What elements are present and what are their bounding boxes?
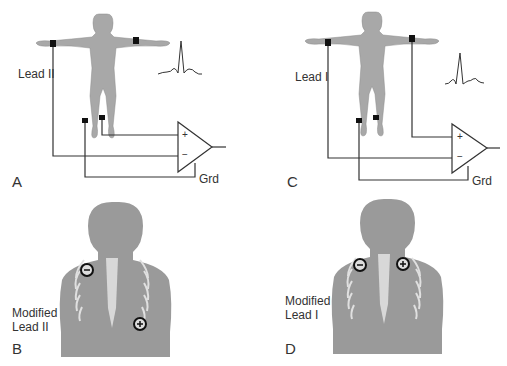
panel-a-body-figure <box>36 14 170 138</box>
ecg-diagram <box>0 0 507 366</box>
modified-lead-i-line1: Modified <box>285 294 330 308</box>
ecg-waveform-lead-i <box>445 53 484 84</box>
panel-label-a: A <box>12 173 22 190</box>
panel-a-wires <box>53 47 226 177</box>
modified-lead-i-line2: Lead I <box>285 308 318 322</box>
panel-d-chest <box>332 199 444 354</box>
lead-ii-label: Lead II <box>18 67 55 81</box>
panel-label-c: C <box>287 173 298 190</box>
panel-c-wires <box>328 42 500 180</box>
panel-b-chest <box>60 202 172 357</box>
modified-lead-ii-line2: Lead II <box>12 320 49 334</box>
lead-i-label: Lead I <box>295 70 328 84</box>
modified-lead-ii-line1: Modified <box>12 306 57 320</box>
amp-minus-c: − <box>457 150 463 164</box>
panel-label-d: D <box>285 340 296 357</box>
panel-label-b: B <box>12 340 22 357</box>
amp-minus-a: − <box>182 148 188 162</box>
ground-label-c: Grd <box>472 174 492 188</box>
ground-label-a: Grd <box>199 172 219 186</box>
amp-plus-a: + <box>182 128 188 142</box>
amp-plus-c: + <box>457 130 463 144</box>
